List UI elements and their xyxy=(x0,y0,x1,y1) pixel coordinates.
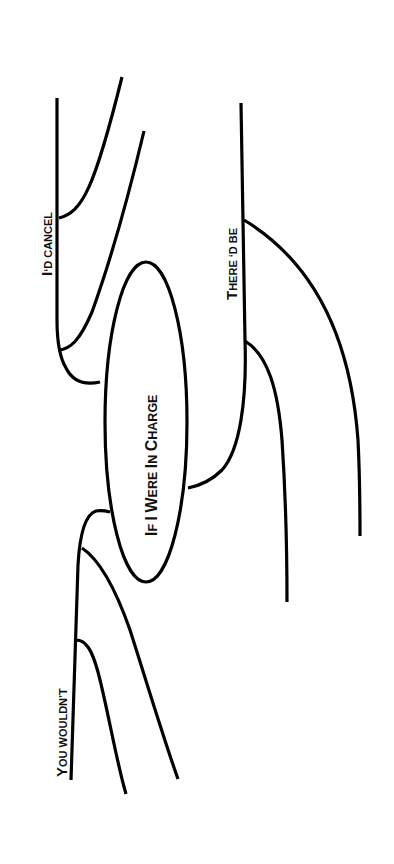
branch-id-cancel-lower xyxy=(58,131,144,350)
center-node: IF I WERE IN CHARGE xyxy=(105,262,187,582)
label-there-d-be: THERE ‘D BE xyxy=(223,228,240,300)
clause-you-wouldnt: YOU WOULDN’T xyxy=(53,511,178,794)
baseline-you-wouldnt xyxy=(71,511,110,780)
center-label: IF I WERE IN CHARGE xyxy=(143,395,160,536)
branch-id-cancel-upper xyxy=(59,77,122,218)
label-you-wouldnt: YOU WOULDN’T xyxy=(53,688,70,777)
baseline-id-cancel xyxy=(57,98,100,383)
label-id-cancel: I‘D CANCEL xyxy=(38,212,55,276)
sentence-diagram: I‘D CANCEL IF I WERE IN CHARGE THERE ‘D … xyxy=(0,0,394,864)
clause-there-d-be: THERE ‘D BE xyxy=(188,103,360,602)
clause-id-cancel: I‘D CANCEL xyxy=(38,77,144,383)
branch-there-d-be-lower xyxy=(245,341,287,602)
branch-you-wouldnt-lower xyxy=(76,640,126,794)
branch-there-d-be-upper xyxy=(244,220,360,536)
